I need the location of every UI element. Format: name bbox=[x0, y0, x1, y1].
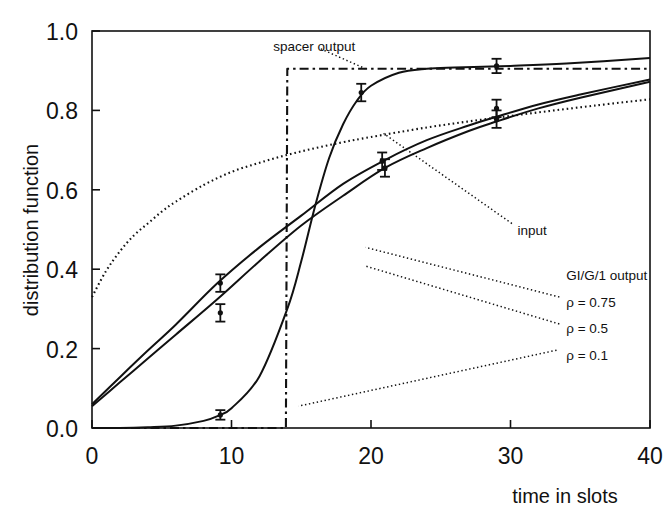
y-axis-tick-labels: 0.00.20.40.60.81.0 bbox=[46, 19, 78, 442]
distribution-function-chart: 010203040 0.00.20.40.60.81.0 spacer outp… bbox=[0, 0, 667, 519]
data-point bbox=[218, 412, 223, 417]
error-bar bbox=[215, 304, 225, 321]
error-bars-layer bbox=[215, 59, 501, 420]
chart-figure: 010203040 0.00.20.40.60.81.0 spacer outp… bbox=[0, 0, 667, 519]
annotation-gig1-output-header: GI/G/1 output bbox=[566, 268, 647, 283]
y-tick-label-0.0: 0.0 bbox=[46, 416, 78, 442]
leader-line-rho-05 bbox=[365, 266, 559, 324]
x-tick-label-40: 40 bbox=[637, 443, 663, 469]
x-axis-title: time in slots bbox=[512, 485, 618, 507]
data-point bbox=[494, 63, 499, 68]
data-series-layer bbox=[92, 58, 650, 428]
plot-border bbox=[92, 31, 650, 428]
error-bar bbox=[215, 410, 225, 420]
data-point bbox=[218, 280, 223, 285]
y-tick-label-0.2: 0.2 bbox=[46, 337, 78, 363]
plot-frame bbox=[92, 31, 650, 428]
x-axis-tick-labels: 010203040 bbox=[86, 443, 663, 469]
leader-line-input bbox=[384, 133, 512, 223]
y-axis-title: distribution function bbox=[20, 144, 42, 316]
y-tick-label-1.0: 1.0 bbox=[46, 19, 78, 45]
error-bar bbox=[492, 110, 502, 127]
x-tick-label-30: 30 bbox=[498, 443, 524, 469]
annotation-rho-01: ρ = 0.1 bbox=[566, 348, 608, 363]
annotation-labels-layer: spacer outputinputGI/G/1 outputρ = 0.75ρ… bbox=[273, 39, 647, 362]
x-tick-label-0: 0 bbox=[86, 443, 99, 469]
x-axis-ticks bbox=[92, 420, 650, 428]
y-tick-label-0.6: 0.6 bbox=[46, 178, 78, 204]
series-line-gi-g-1-output-rho-0-1 bbox=[92, 58, 650, 428]
data-point bbox=[494, 117, 499, 122]
annotation-input: input bbox=[517, 223, 547, 238]
series-line-spacer-output bbox=[92, 69, 650, 428]
data-point bbox=[382, 165, 387, 170]
y-tick-label-0.8: 0.8 bbox=[46, 98, 78, 124]
x-tick-label-20: 20 bbox=[358, 443, 384, 469]
annotation-rho-075: ρ = 0.75 bbox=[566, 295, 615, 310]
y-tick-label-0.4: 0.4 bbox=[46, 257, 78, 283]
leader-line-rho-075 bbox=[365, 247, 559, 297]
leader-line-rho-01 bbox=[298, 350, 556, 406]
annotation-rho-05: ρ = 0.5 bbox=[566, 321, 608, 336]
y-axis-ticks bbox=[92, 31, 100, 428]
annotation-spacer-output: spacer output bbox=[273, 39, 355, 54]
data-point bbox=[359, 90, 364, 95]
data-point bbox=[218, 310, 223, 315]
x-tick-label-10: 10 bbox=[219, 443, 245, 469]
